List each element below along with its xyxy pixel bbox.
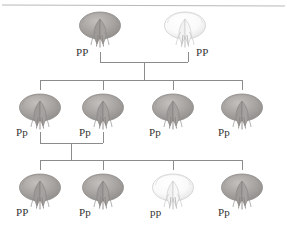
genotype-label-f1-1: Pp (16, 127, 28, 138)
flower-f2-3 (153, 174, 194, 210)
flower-f2-1 (20, 174, 61, 210)
flower-f1-2 (83, 94, 124, 130)
genotype-label-f2-4: Pp (218, 207, 230, 218)
genotype-label-f2-2: Pp (79, 207, 91, 218)
genotype-label-p-1: PP (76, 47, 89, 58)
flower-p-2 (165, 12, 206, 48)
pedigree-canvas (0, 0, 287, 229)
flower-f1-4 (222, 94, 263, 130)
parental-cross-lines (40, 52, 242, 90)
pedigree-diagram: PP PP Pp Pp Pp Pp PP Pp pp Pp (0, 0, 287, 229)
genotype-label-f1-3: Pp (149, 127, 161, 138)
flower-f1-1 (20, 94, 61, 130)
flower-f2-4 (222, 174, 263, 210)
flower-f1-3 (153, 94, 194, 130)
genotype-label-f1-4: Pp (218, 127, 230, 138)
f1-cross-lines (40, 132, 242, 170)
flower-f2-2 (83, 174, 124, 210)
genotype-label-p-2: PP (196, 47, 209, 58)
genotype-label-f1-2: Pp (79, 127, 91, 138)
top-divider-rule (2, 5, 285, 6)
genotype-label-f2-1: PP (16, 207, 29, 218)
flower-p-1 (80, 12, 121, 48)
genotype-label-f2-3: pp (150, 207, 161, 218)
